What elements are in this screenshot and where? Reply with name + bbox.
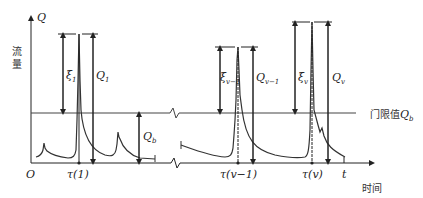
flow-peak-diagram — [0, 0, 423, 198]
q-1-sub: 1 — [105, 76, 109, 84]
q-v-symbol: Q — [332, 71, 341, 84]
origin-label: O — [26, 169, 35, 180]
peak-v1-tick-dot — [236, 161, 239, 164]
flow-curve-2 — [181, 22, 345, 158]
q-v1-label: Qv−1 — [256, 72, 279, 86]
threshold-label: 门限值Qb — [370, 109, 414, 123]
axis-break-icon — [167, 158, 184, 168]
q-v-label: Qv — [332, 72, 345, 86]
threshold-label-symbol: Q — [400, 108, 409, 121]
xi-1-sub: 1 — [72, 76, 76, 84]
y-axis-title: 流量 — [10, 46, 20, 72]
tau-v-label: τ(v) — [302, 169, 323, 180]
x-axis-title: 时间 — [362, 184, 382, 194]
q-v1-sub: v−1 — [265, 78, 279, 86]
xi-v1-sub: v−1 — [226, 78, 240, 86]
xi-v1-label: ξv−1 — [220, 72, 240, 86]
base-flow-sub: b — [152, 137, 156, 145]
threshold-break-icon — [166, 108, 183, 118]
q-v-sub: v — [341, 78, 345, 86]
threshold-label-prefix: 门限值 — [370, 109, 400, 120]
xi-v-sub: v — [304, 78, 308, 86]
xi-v-label: ξv — [298, 72, 308, 86]
tau-1-label: τ(1) — [67, 169, 89, 180]
base-flow-label: Qb — [143, 131, 157, 145]
tau-v1-label: τ(v−1) — [220, 169, 257, 180]
peak-v-tick-dot — [310, 161, 313, 164]
q-1-label: Q1 — [96, 70, 110, 84]
x-axis-label: t — [342, 169, 346, 180]
base-flow-symbol: Q — [143, 130, 152, 143]
threshold-label-sub: b — [409, 115, 413, 123]
y-axis-label: Q — [37, 12, 46, 23]
flow-curve-1 — [36, 34, 155, 159]
q-v1-symbol: Q — [256, 71, 265, 84]
peak-1-tick-dot — [77, 161, 80, 164]
xi-1-label: ξ1 — [66, 70, 77, 84]
q-1-symbol: Q — [96, 69, 105, 82]
